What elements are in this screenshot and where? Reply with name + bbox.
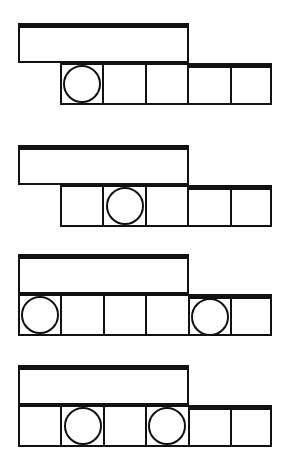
answer-cell[interactable] [187,185,229,227]
answer-cell[interactable] [188,405,230,447]
answer-grid [60,185,272,227]
answer-cell[interactable] [230,63,272,105]
answer-cell[interactable] [187,63,229,105]
answer-cell[interactable] [18,294,60,336]
answer-grid [60,63,272,105]
scrambled-word-box [18,365,189,405]
key-letter-circle-icon [63,65,101,103]
key-letter-circle-icon [106,187,144,225]
scrambled-word-box [18,254,189,294]
worksheet-sheet: KOVEEILFOOENGOPSGICART [0,0,294,455]
key-letter-circle-icon [191,298,229,336]
answer-cell[interactable] [102,185,144,227]
key-letter-circle-icon [148,407,186,445]
answer-cell[interactable] [60,294,102,336]
answer-cell[interactable] [103,294,145,336]
answer-cell[interactable] [145,405,187,447]
key-letter-circle-icon [64,407,102,445]
answer-cell[interactable] [230,294,272,336]
answer-grid [18,405,272,447]
answer-cell[interactable] [60,405,102,447]
key-letter-circle-icon [21,296,59,334]
answer-cell[interactable] [145,294,187,336]
answer-cell[interactable] [188,294,230,336]
answer-cell[interactable] [230,405,272,447]
answer-cell[interactable] [18,405,60,447]
answer-cell[interactable] [145,63,187,105]
answer-cell[interactable] [230,185,272,227]
answer-cell[interactable] [60,185,102,227]
answer-cell[interactable] [103,405,145,447]
scrambled-word-box [18,23,189,63]
answer-cell[interactable] [102,63,144,105]
scrambled-word-box [18,145,189,185]
answer-cell[interactable] [145,185,187,227]
answer-cell[interactable] [60,63,102,105]
answer-grid [18,294,272,336]
